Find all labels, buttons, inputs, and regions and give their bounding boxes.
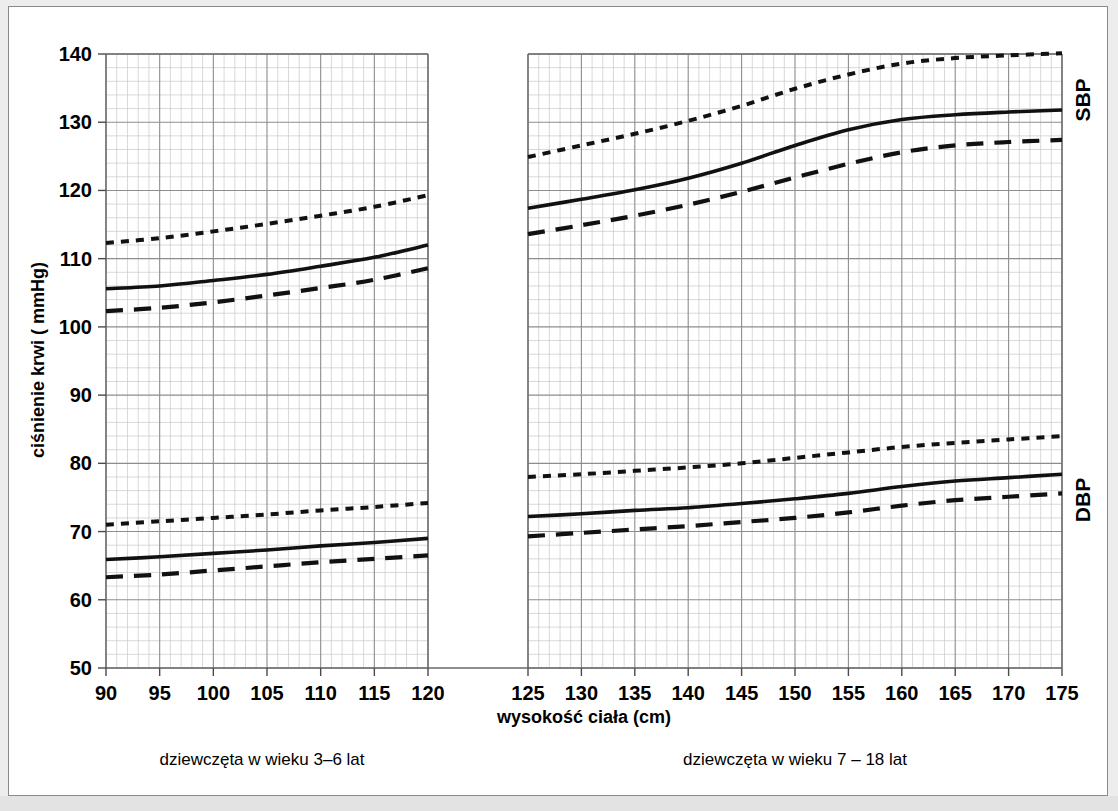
x-tick-label: 115 bbox=[358, 682, 390, 704]
panel-caption-right: dziewczęta w wieku 7 – 18 lat bbox=[683, 750, 907, 769]
y-tick-label: 140 bbox=[59, 43, 92, 65]
x-tick-label: 160 bbox=[885, 682, 918, 704]
x-axis-title: wysokość ciała (cm) bbox=[496, 707, 671, 727]
x-tick-label: 135 bbox=[618, 682, 651, 704]
y-tick-label: 120 bbox=[59, 179, 92, 201]
x-tick-label: 155 bbox=[832, 682, 865, 704]
x-tick-label: 170 bbox=[992, 682, 1025, 704]
y-tick-label: 90 bbox=[70, 384, 92, 406]
chart-page: 5060708090100110120130140909510010511011… bbox=[0, 0, 1118, 811]
y-axis-title: ciśnienie krwi ( mmHg) bbox=[28, 262, 48, 458]
x-tick-label: 130 bbox=[565, 682, 598, 704]
x-tick-label: 100 bbox=[197, 682, 230, 704]
curve-layer bbox=[106, 53, 1062, 577]
blood-pressure-chart: 5060708090100110120130140909510010511011… bbox=[0, 0, 1118, 811]
x-tick-label: 145 bbox=[725, 682, 758, 704]
grid-layer bbox=[106, 54, 1062, 668]
x-tick-label: 175 bbox=[1045, 682, 1078, 704]
x-tick-label: 105 bbox=[250, 682, 283, 704]
x-tick-label: 140 bbox=[672, 682, 705, 704]
panel-caption-left: dziewczęta w wieku 3–6 lat bbox=[159, 750, 364, 769]
y-tick-label: 110 bbox=[60, 248, 92, 270]
y-tick-label: 80 bbox=[70, 452, 92, 474]
side-label-dbp: DBP bbox=[1071, 478, 1094, 522]
y-tick-label: 70 bbox=[70, 521, 92, 543]
side-label-sbp: SBP bbox=[1071, 78, 1094, 121]
x-tick-label: 125 bbox=[511, 682, 544, 704]
x-tick-label: 95 bbox=[149, 682, 171, 704]
x-tick-label: 110 bbox=[305, 682, 337, 704]
x-tick-label: 165 bbox=[939, 682, 972, 704]
x-tick-label: 120 bbox=[411, 682, 444, 704]
y-tick-label: 100 bbox=[59, 316, 92, 338]
x-tick-label: 90 bbox=[95, 682, 117, 704]
y-tick-label: 130 bbox=[59, 111, 92, 133]
x-tick-label: 150 bbox=[778, 682, 811, 704]
y-tick-label: 60 bbox=[70, 589, 92, 611]
y-tick-label: 50 bbox=[70, 657, 92, 679]
